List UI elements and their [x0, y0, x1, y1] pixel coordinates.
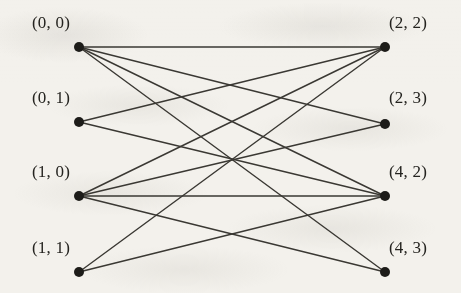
node-label-r1: (2, 3)	[389, 89, 427, 106]
node-label-l3: (1, 1)	[32, 239, 70, 256]
node-label-r3: (4, 3)	[389, 239, 427, 256]
edge-layer	[79, 47, 385, 272]
node-label-r0: (2, 2)	[389, 14, 427, 31]
graph-node-r1[interactable]	[380, 119, 390, 129]
graph-node-l1[interactable]	[74, 117, 84, 127]
node-label-l0: (0, 0)	[32, 14, 70, 31]
graph-node-l3[interactable]	[74, 267, 84, 277]
graph-node-r2[interactable]	[380, 191, 390, 201]
graph-node-l2[interactable]	[74, 191, 84, 201]
graph-node-r0[interactable]	[380, 42, 390, 52]
node-label-l2: (1, 0)	[32, 163, 70, 180]
graph-node-r3[interactable]	[380, 267, 390, 277]
node-label-l1: (0, 1)	[32, 89, 70, 106]
node-label-r2: (4, 2)	[389, 163, 427, 180]
bipartite-graph-figure: (0, 0)(0, 1)(1, 0)(1, 1)(2, 2)(2, 3)(4, …	[0, 0, 461, 293]
graph-node-l0[interactable]	[74, 42, 84, 52]
